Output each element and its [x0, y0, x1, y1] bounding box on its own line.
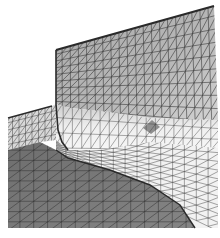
mesh-rendering: [0, 0, 220, 238]
mesh-figure: [0, 0, 220, 238]
